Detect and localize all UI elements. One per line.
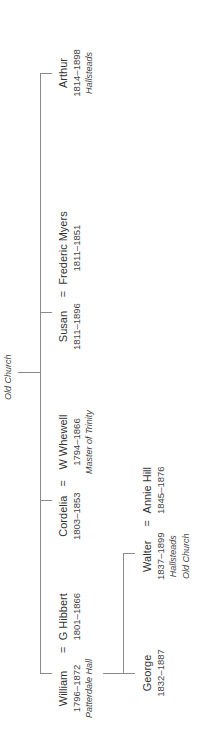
hibbert-dates: 1801–1866 (70, 593, 83, 641)
susan-dates: 1811–1896 (70, 303, 83, 350)
william-name: William (57, 659, 70, 718)
arthur-place: Hallsteads (83, 49, 96, 97)
arthur-name: Arthur (57, 49, 70, 97)
marriage-equals: = (57, 647, 70, 653)
couple-susan-myers: Susan 1811–1896 = Frederic Myers 1811–18… (57, 211, 83, 350)
marriage-equals: = (57, 291, 70, 297)
william-place: Patterdale Hall (83, 659, 96, 718)
whewell-place: Master of Trinity (83, 410, 96, 474)
stub-arthur (40, 73, 52, 74)
cordelia-name: Cordelia (57, 492, 70, 540)
couple-cordelia-whewell: Cordelia 1803–1853 = W Whewell 1794–1866… (57, 410, 96, 540)
walter-place-1: Hallsteads (167, 532, 180, 580)
george-name: George (141, 649, 154, 697)
root-place-label: Old Church (3, 354, 13, 400)
marriage-equals: = (141, 520, 154, 526)
hibbert-name: G Hibbert (57, 593, 70, 641)
arthur-dates: 1814–1898 (70, 49, 83, 97)
couple-william-hibbert: William 1796–1872 Patterdale Hall = G Hi… (57, 593, 96, 718)
root-stub-line (18, 372, 40, 373)
person-arthur: Arthur 1814–1898 Hallsteads (57, 45, 96, 101)
myers-dates: 1811–1851 (70, 211, 83, 284)
walter-name: Walter (141, 532, 154, 580)
stub-william (40, 673, 52, 674)
stub-george (123, 673, 135, 674)
whewell-dates: 1794–1866 (70, 410, 83, 474)
annie-name: Annie Hill (141, 466, 154, 514)
walter-dates: 1837–1899 (154, 532, 167, 580)
annie-dates: 1845–1876 (154, 466, 167, 514)
couple-walter-annie: Walter 1837–1899 Hallsteads Old Church =… (141, 466, 193, 580)
stub-susan (40, 312, 52, 313)
william-descent-line (103, 673, 123, 674)
cordelia-dates: 1803–1853 (70, 492, 83, 540)
myers-name: Frederic Myers (57, 211, 70, 284)
person-george: George 1832–1887 (141, 649, 167, 697)
grandchild-trunk-line (123, 553, 124, 674)
william-dates: 1796–1872 (70, 659, 83, 718)
walter-place-2: Old Church (180, 532, 193, 580)
george-dates: 1832–1887 (154, 649, 167, 697)
whewell-name: W Whewell (57, 410, 70, 474)
marriage-equals: = (57, 480, 70, 486)
main-trunk-line (40, 73, 41, 674)
stub-walter (123, 553, 135, 554)
stub-cordelia (40, 500, 52, 501)
susan-name: Susan (57, 303, 70, 350)
